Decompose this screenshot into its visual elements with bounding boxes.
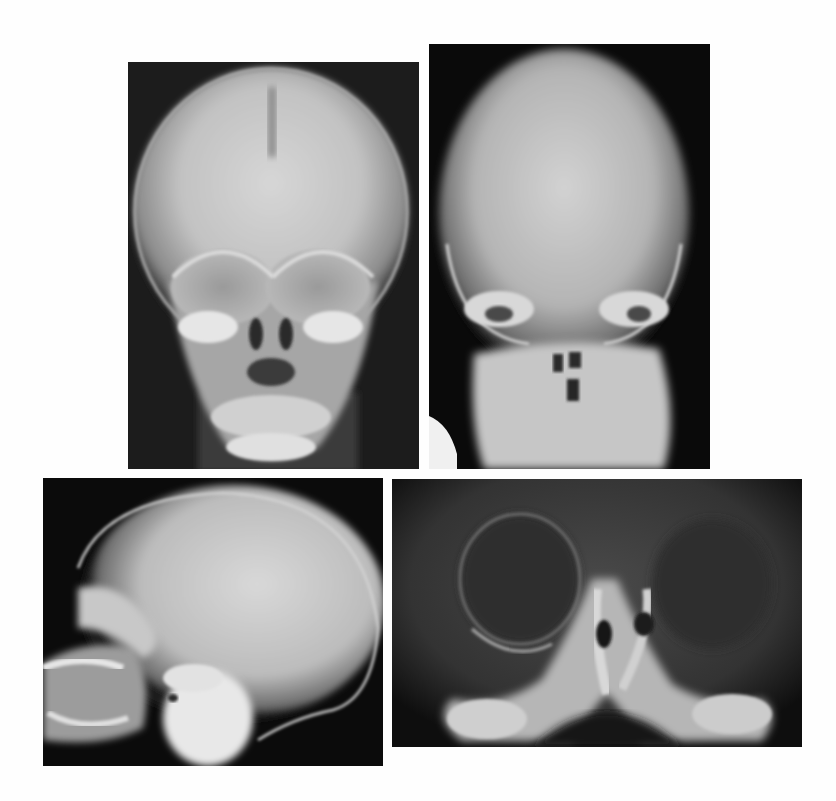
orbit-closeup-image [392,479,802,747]
lateral-skull-image [43,478,383,766]
frontal-skull-radiograph [128,62,419,469]
lateral-skull-radiograph [43,478,383,766]
frontal-skull-image [128,62,419,469]
towne-skull-radiograph [429,44,710,469]
orbit-closeup-radiograph [392,479,802,747]
towne-skull-image [429,44,710,469]
